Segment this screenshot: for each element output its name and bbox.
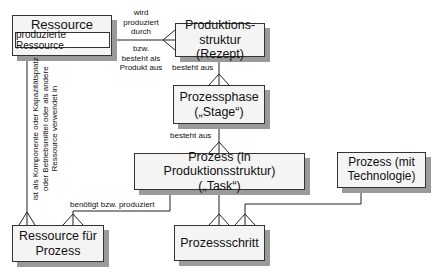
entity-prozess-technologie-line1: Prozess (mit: [348, 156, 415, 170]
entity-prozess-technologie-line2: Technologie): [347, 170, 415, 184]
entity-prozess-technologie[interactable]: Prozess (mit Technologie): [337, 152, 426, 188]
label-line: wird: [123, 8, 159, 18]
label-line: Produkt aus: [119, 63, 163, 73]
entity-prozess-task-line1: Prozess (in Produktionsstruktur): [135, 150, 304, 179]
entity-prozessphase-line1: Prozessphase: [179, 90, 258, 104]
label-besteht-als-produkt-aus: bzw. besteht als Produkt aus: [119, 44, 163, 73]
label-line: besteht als: [119, 54, 163, 64]
label-benoetigt-bzw-produziert: benötigt bzw. produziert: [70, 200, 155, 210]
label-phase-besteht-aus: besteht aus: [170, 131, 211, 141]
label-line: ist als Komponente oder Kapazitätsplatz: [31, 57, 41, 200]
entity-ressource-fuer-prozess[interactable]: Ressource für Prozess: [12, 225, 104, 262]
label-line: Ressource verwendet in: [50, 57, 60, 200]
label-struktur-besteht-aus: besteht aus: [172, 63, 213, 73]
label-ressource-verwendet-in: ist als Komponente oder Kapazitätsplatz …: [31, 57, 60, 200]
attribute-produzierte-ressource[interactable]: produzierte Ressource: [15, 32, 110, 48]
label-wird-produziert-durch: wird produziert durch: [123, 8, 159, 37]
er-diagram: Ressource produzierte Ressource Produkti…: [0, 0, 436, 276]
entity-prozessschritt[interactable]: Prozessschritt: [174, 225, 265, 261]
label-line: oder Betriebsmittel oder als andere: [41, 57, 51, 200]
entity-prozess-task-line2: („Task“): [198, 179, 240, 193]
entity-produktionsstruktur[interactable]: Produktions- struktur (Rezept): [175, 23, 265, 57]
label-line: durch: [123, 27, 159, 37]
entity-produktionsstruktur-line2: struktur (Rezept): [176, 33, 264, 62]
entity-prozessschritt-line1: Prozessschritt: [180, 236, 259, 250]
entity-prozessphase-line2: („Stage“): [194, 105, 243, 119]
entity-produktionsstruktur-line1: Produktions-: [185, 18, 255, 32]
label-line: produziert: [123, 18, 159, 28]
entity-ressource-fuer-prozess-line1: Ressource für: [19, 229, 97, 243]
entity-prozess-task[interactable]: Prozess (in Produktionsstruktur) („Task“…: [134, 153, 305, 190]
label-line: bzw.: [119, 44, 163, 54]
connector-technologie-schritt: [245, 188, 361, 225]
entity-prozessphase[interactable]: Prozessphase („Stage“): [173, 85, 265, 124]
entity-ressource-fuer-prozess-line2: Prozess: [35, 244, 80, 258]
